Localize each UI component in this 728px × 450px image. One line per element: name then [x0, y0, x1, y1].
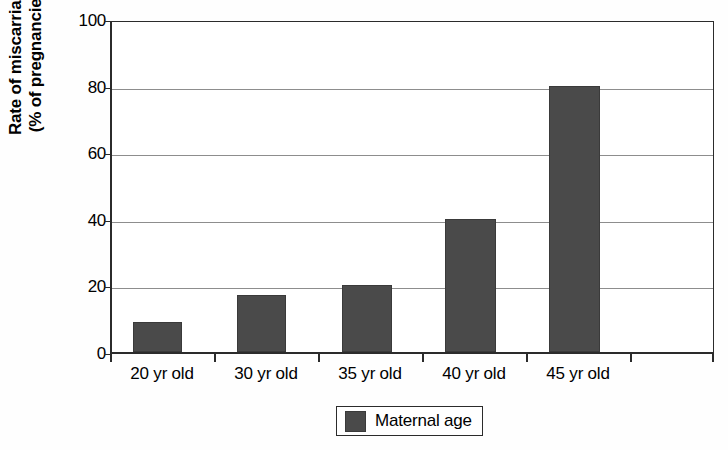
x-tick-label-45-yr-old: 45 yr old	[546, 364, 609, 384]
y-axis-title-line-1: Rate of miscarriage	[6, 0, 26, 135]
y-tick-label-60: 60	[58, 144, 106, 164]
x-tick-label-30-yr-old: 30 yr old	[234, 364, 297, 384]
x-tick-label-40-yr-old: 40 yr old	[442, 364, 505, 384]
legend-color-swatch-icon	[345, 411, 366, 432]
x-tick-mark-end	[712, 354, 714, 362]
x-axis-tick-marks	[110, 354, 714, 364]
y-tick-label-0: 0	[58, 344, 106, 364]
y-tick-label-40: 40	[58, 211, 106, 231]
x-tick-mark-2	[318, 354, 320, 362]
y-tick-label-80: 80	[58, 78, 106, 98]
x-tick-label-35-yr-old: 35 yr old	[338, 364, 401, 384]
bar-chart-figure: Rate of miscarriage (% of pregnancies) 1…	[0, 0, 728, 450]
chart-legend: Maternal age	[336, 406, 483, 436]
x-tick-mark-3	[422, 354, 424, 362]
x-tick-mark-start	[110, 354, 112, 362]
plot-area	[110, 21, 714, 354]
x-axis-tick-labels: 20 yr old 30 yr old 35 yr old 40 yr old …	[110, 364, 714, 392]
y-axis-title: Rate of miscarriage (% of pregnancies)	[0, 0, 52, 178]
y-axis-title-line-2: (% of pregnancies)	[26, 0, 46, 132]
x-tick-mark-4	[526, 354, 528, 362]
y-tick-label-20: 20	[58, 277, 106, 297]
bar-30-yr-old[interactable]	[237, 295, 286, 352]
bar-20-yr-old[interactable]	[133, 322, 182, 352]
bar-35-yr-old[interactable]	[342, 285, 392, 352]
bar-40-yr-old[interactable]	[445, 219, 496, 352]
bar-45-yr-old[interactable]	[549, 86, 600, 352]
y-axis-tick-labels: 100 80 60 40 20 0	[58, 0, 106, 450]
x-tick-mark-5	[630, 354, 632, 362]
y-tick-label-100: 100	[58, 11, 106, 31]
x-tick-mark-1	[214, 354, 216, 362]
bars-layer	[112, 22, 713, 352]
legend-label-maternal-age: Maternal age	[375, 411, 472, 431]
x-tick-label-20-yr-old: 20 yr old	[130, 364, 193, 384]
